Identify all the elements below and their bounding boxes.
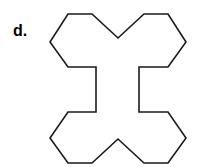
figure-panel: d. [0,0,204,167]
shape-diagram [0,0,204,167]
x-shaped-polygon-icon [50,14,186,163]
